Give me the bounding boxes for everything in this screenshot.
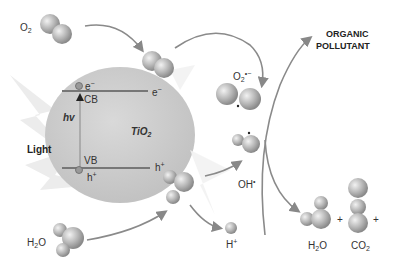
product-h2o-label: H2O — [308, 241, 327, 252]
proton-label: H+ — [226, 238, 237, 250]
transferred-hole-label: h+ — [155, 161, 165, 173]
superoxide-label: O2•− — [233, 70, 251, 83]
organic-pollutant-label-line2: POLLUTANT — [316, 42, 370, 51]
superoxide-molecule-icon — [216, 83, 261, 110]
arrow-h2o-to-hole — [87, 212, 165, 240]
h2o-label: H2O — [27, 238, 46, 249]
cb-label: CB — [84, 95, 98, 105]
arrow-to-organic-pollutant — [262, 38, 310, 235]
hydroxyl-label: OH• — [238, 178, 255, 190]
vb-hole-label: h+ — [87, 171, 97, 183]
product-h2o-molecule-icon — [300, 196, 331, 229]
product-co2-label: CO2 — [351, 241, 370, 252]
vb-label: VB — [84, 156, 97, 166]
proton-icon — [225, 222, 237, 234]
arrow-o2-to-surface — [85, 25, 142, 50]
cb-electron-label: e− — [85, 80, 95, 92]
tio2-label: TiO2 — [131, 127, 151, 138]
plus-sign-2: + — [373, 215, 379, 225]
h2o-molecule-icon — [53, 223, 84, 257]
hv-label: hv — [63, 113, 75, 123]
light-label: Light — [27, 145, 51, 155]
hole-dot-icon — [76, 167, 83, 174]
transferred-electron-label: e− — [152, 86, 162, 98]
o2-molecule-icon — [40, 14, 72, 44]
electron-dot-icon — [76, 83, 83, 90]
o2-label: O2 — [20, 23, 32, 34]
organic-pollutant-label-line1: ORGANIC — [326, 30, 369, 39]
arrow-to-products — [265, 140, 298, 211]
plus-sign-1: + — [337, 215, 343, 225]
hydroxyl-radical-icon — [232, 132, 260, 153]
product-co2-molecule-icon — [348, 178, 368, 233]
arrow-to-proton — [190, 205, 220, 228]
